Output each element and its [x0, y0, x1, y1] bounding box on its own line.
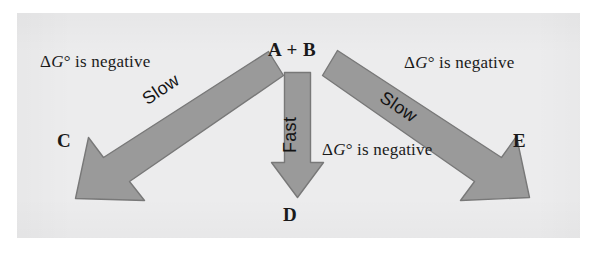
delta-g-text: ° is negative: [428, 53, 515, 72]
delta-g-text: ° is negative: [64, 52, 151, 71]
rate-label-center: Fast: [281, 117, 299, 153]
g-symbol: G: [51, 52, 63, 71]
product-label-c: C: [57, 131, 71, 150]
reaction-scheme-figure: A + B C D E ΔG° is negative ΔG° is negat…: [0, 0, 598, 256]
delta-symbol: Δ: [322, 140, 333, 159]
arrow-to-e: [323, 51, 530, 201]
delta-g-label-center: ΔG° is negative: [322, 141, 432, 158]
product-label-e: E: [513, 131, 526, 150]
delta-g-text: ° is negative: [346, 140, 433, 159]
delta-symbol: Δ: [40, 52, 51, 71]
arrow-to-c: [76, 52, 284, 201]
g-symbol: G: [333, 140, 345, 159]
g-symbol: G: [415, 53, 427, 72]
delta-g-label-right: ΔG° is negative: [404, 54, 514, 71]
delta-g-label-left: ΔG° is negative: [40, 53, 150, 70]
reactants-label: A + B: [268, 40, 316, 59]
delta-symbol: Δ: [404, 53, 415, 72]
product-label-d: D: [283, 205, 297, 224]
